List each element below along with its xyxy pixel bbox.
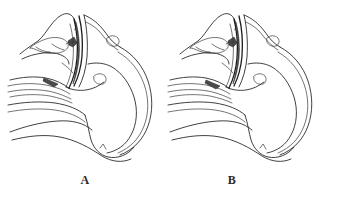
connector-stroke-1	[222, 63, 233, 73]
suprahyoid-strand-2	[168, 84, 230, 94]
pharyngeal-band-innermost	[66, 24, 73, 87]
lower-cavity-outline	[85, 115, 134, 158]
laryngeal-floor-upper	[8, 102, 85, 115]
suprahyoid-strand-3	[168, 90, 231, 99]
esophagus-anterior	[10, 121, 92, 132]
inner-cavity-arc	[88, 63, 136, 153]
esophagus-anterior	[170, 121, 252, 132]
panel-label-b: B	[212, 172, 252, 188]
occipital-outer-arc	[120, 47, 152, 155]
panel-label-a: A	[65, 172, 105, 188]
laryngeal-floor-lower	[168, 109, 245, 122]
suprahyoid-strand-2	[8, 84, 70, 94]
vertebra-c2	[94, 74, 106, 85]
connector-stroke-3	[196, 47, 210, 52]
lower-cavity-outline	[245, 115, 294, 158]
occipital-inner-arc	[278, 52, 308, 153]
laryngeal-floor-upper	[168, 102, 245, 115]
connector-stroke-2	[52, 44, 64, 50]
suprahyoid-strand-3	[8, 90, 71, 99]
inner-cavity-arc	[248, 63, 296, 153]
anatomy-drawing-a	[0, 0, 170, 175]
pharyngeal-band-innermost	[226, 24, 233, 87]
pharyngeal-band-outer	[239, 15, 247, 87]
nasal-cavity-outline	[30, 38, 68, 54]
laryngeal-floor-lower	[8, 109, 85, 122]
pharyngeal-band-outer	[79, 15, 87, 87]
panel-b	[160, 0, 330, 175]
figure-root: A B	[0, 0, 339, 201]
anatomy-drawing-b	[160, 0, 330, 175]
connector-stroke-2	[212, 44, 224, 50]
skull-base-contour	[244, 15, 280, 47]
vertebra-c2	[254, 74, 266, 85]
suprahyoid-strand-1	[170, 77, 230, 89]
nasal-cavity-outline	[190, 38, 228, 54]
occipital-inner-arc	[118, 52, 148, 153]
connector-stroke-3	[36, 47, 50, 52]
suprahyoid-strand-1	[10, 77, 70, 89]
lower-cavity-notch	[100, 144, 106, 149]
connector-stroke-1	[62, 63, 73, 73]
skull-base-contour	[84, 15, 120, 47]
lower-cavity-notch	[260, 144, 266, 149]
panel-a	[0, 0, 170, 175]
tongue-dorsum	[182, 53, 229, 64]
tongue-dorsum	[22, 53, 69, 64]
occipital-outer-arc	[280, 47, 312, 155]
